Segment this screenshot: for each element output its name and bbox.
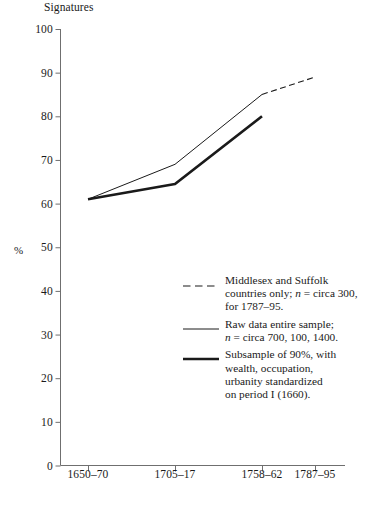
legend-swatch-thick-solid	[183, 353, 219, 365]
legend-swatch-dashed	[183, 280, 219, 292]
legend-item-middlesex-suffolk: Middlesex and Suffolkcountries only; n =…	[183, 274, 373, 313]
x-tick-label: 1758–62	[242, 468, 283, 480]
legend-label-middlesex-suffolk: Middlesex and Suffolkcountries only; n =…	[225, 274, 373, 313]
chart-legend: Middlesex and Suffolkcountries only; n =…	[183, 274, 373, 405]
plot-area	[0, 0, 378, 508]
y-axis-ticks	[56, 30, 61, 467]
legend-item-subsample: Subsample of 90%, withwealth, occupation…	[183, 348, 373, 400]
legend-swatch-thin-solid	[183, 323, 219, 335]
series-line-dashed	[262, 77, 315, 94]
legend-label-raw-data: Raw data entire sample;n = circa 700, 10…	[225, 318, 373, 344]
series-line-thick-solid	[88, 116, 262, 199]
x-tick-label: 1705–17	[155, 468, 196, 480]
chart-figure: Signatures % 0102030405060708090100 1650…	[0, 0, 378, 508]
x-tick-label: 1787–95	[295, 468, 336, 480]
series-lines	[88, 77, 315, 199]
legend-item-raw-data: Raw data entire sample;n = circa 700, 10…	[183, 318, 373, 344]
x-tick-label: 1650–70	[68, 468, 109, 480]
legend-label-subsample: Subsample of 90%, withwealth, occupation…	[225, 348, 373, 400]
